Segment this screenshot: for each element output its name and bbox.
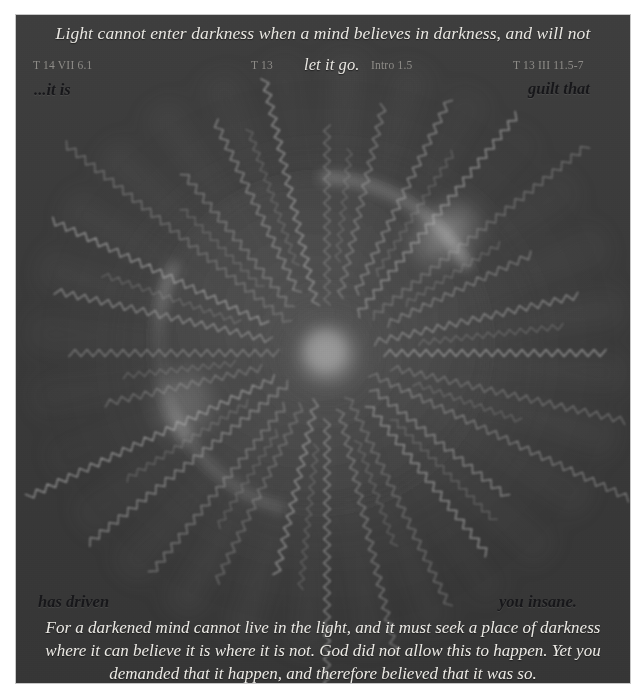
phrase-bottom-left: has driven [38, 592, 109, 612]
body-line-2: where it can believe it is where it is n… [16, 641, 630, 661]
sunburst-artwork [16, 15, 630, 683]
top-quote-line: Light cannot enter darkness when a mind … [16, 23, 630, 44]
top-quote-continuation: let it go. [304, 55, 360, 75]
phrase-top-left: ...it is [34, 80, 71, 100]
citation-3: Intro 1.5 [371, 59, 412, 71]
citation-1: T 14 VII 6.1 [33, 59, 92, 71]
body-line-3: demanded that it happen, and therefore b… [16, 664, 630, 683]
phrase-top-right: guilt that [528, 79, 590, 99]
poster-image: Light cannot enter darkness when a mind … [0, 0, 639, 700]
dark-panel: Light cannot enter darkness when a mind … [16, 15, 630, 683]
core-orb [253, 280, 401, 428]
citation-4: T 13 III 11.5-7 [513, 59, 584, 71]
citation-2: T 13 [251, 59, 273, 71]
body-line-1: For a darkened mind cannot live in the l… [16, 618, 630, 638]
phrase-bottom-right: you insane. [499, 592, 577, 612]
